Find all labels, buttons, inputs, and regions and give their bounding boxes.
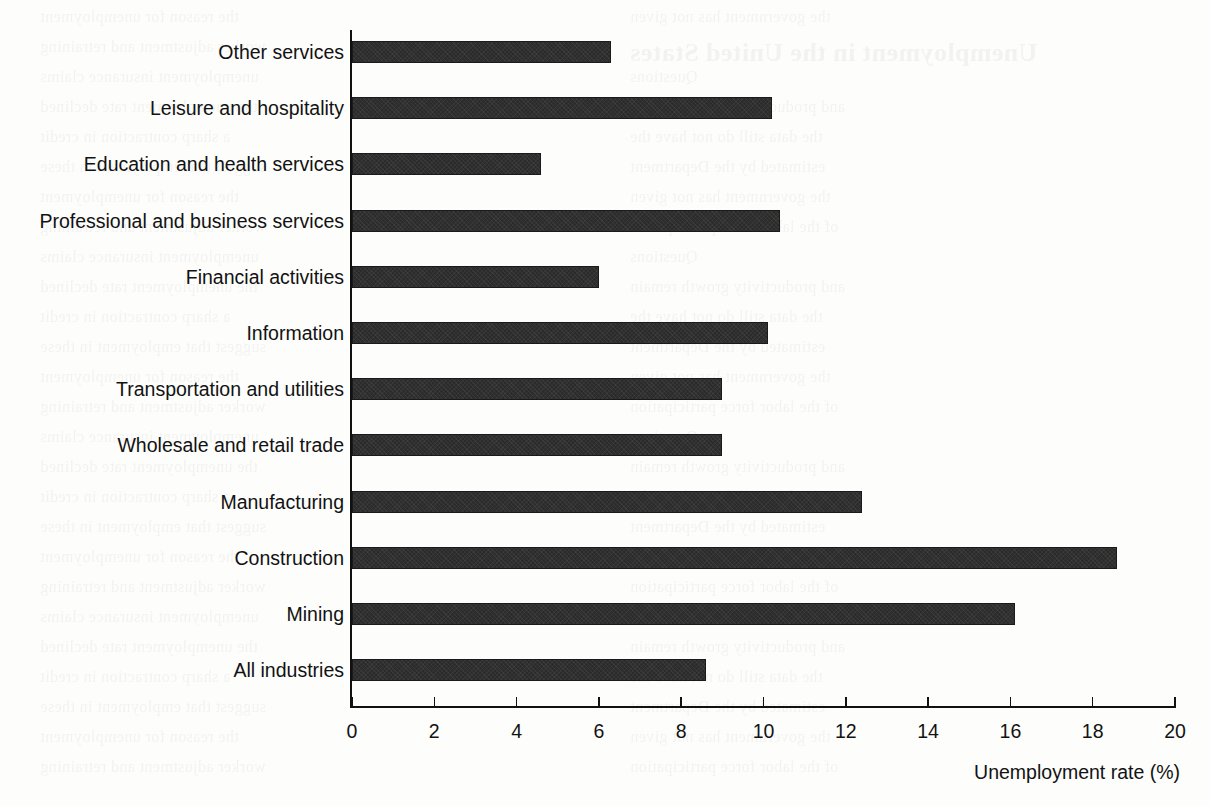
- x-tick-label: 4: [492, 720, 542, 743]
- bar: [352, 603, 1015, 625]
- x-tick-label: 20: [1150, 720, 1200, 743]
- category-label: Education and health services: [84, 154, 344, 174]
- bar: [352, 41, 611, 63]
- x-tick-label: 14: [903, 720, 953, 743]
- x-tick-label: 2: [409, 720, 459, 743]
- bar-chart: Other servicesLeisure and hospitalityEdu…: [0, 0, 1210, 806]
- x-tick-label: 16: [985, 720, 1035, 743]
- category-label: Leisure and hospitality: [150, 98, 344, 118]
- category-label: Mining: [287, 604, 344, 624]
- category-label: Manufacturing: [220, 492, 344, 512]
- x-tick: [434, 697, 436, 706]
- category-label: Wholesale and retail trade: [117, 435, 344, 455]
- category-label: Construction: [235, 548, 344, 568]
- bar: [352, 547, 1117, 569]
- x-tick-label: 8: [656, 720, 706, 743]
- x-tick: [927, 697, 929, 706]
- bar: [352, 97, 772, 119]
- category-label: Other services: [218, 42, 344, 62]
- x-tick-label: 6: [574, 720, 624, 743]
- x-axis-title: Unemployment rate (%): [700, 761, 1180, 784]
- bar: [352, 378, 722, 400]
- category-label: All industries: [233, 660, 344, 680]
- bar: [352, 491, 862, 513]
- x-tick: [845, 697, 847, 706]
- x-tick: [598, 697, 600, 706]
- x-tick: [1174, 697, 1176, 706]
- category-label: Information: [246, 323, 344, 343]
- category-label: Transportation and utilities: [116, 379, 344, 399]
- bar: [352, 322, 768, 344]
- bar: [352, 210, 780, 232]
- x-axis-line: [350, 706, 1176, 708]
- x-tick: [516, 697, 518, 706]
- x-tick: [1092, 697, 1094, 706]
- x-tick-label: 18: [1068, 720, 1118, 743]
- bar: [352, 434, 722, 456]
- x-tick-label: 10: [739, 720, 789, 743]
- bar: [352, 659, 706, 681]
- x-tick: [1010, 697, 1012, 706]
- category-label: Professional and business services: [39, 211, 344, 231]
- x-tick: [680, 697, 682, 706]
- x-tick: [351, 697, 353, 706]
- bar: [352, 153, 541, 175]
- x-tick-label: 12: [821, 720, 871, 743]
- bar: [352, 266, 599, 288]
- x-tick-label: 0: [327, 720, 377, 743]
- category-label: Financial activities: [186, 267, 344, 287]
- x-tick: [763, 697, 765, 706]
